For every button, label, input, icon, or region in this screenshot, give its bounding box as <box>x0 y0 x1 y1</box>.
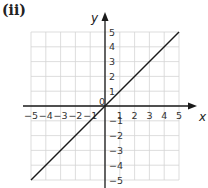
y-tick-label: 4 <box>109 41 115 52</box>
coordinate-plot: xy −5−4−3−2−11234554321−1−2−3−4−50 <box>0 0 208 188</box>
y-tick-label: −4 <box>109 160 123 171</box>
x-tick-label: 2 <box>132 110 138 121</box>
x-axis-arrow-icon <box>188 103 197 110</box>
y-tick-label: 1 <box>109 86 115 97</box>
y-tick-label: 5 <box>109 27 115 38</box>
x-tick-label: −2 <box>68 110 82 121</box>
y-tick-label: −3 <box>109 145 123 156</box>
y-axis-arrow-icon <box>102 12 109 21</box>
y-tick-label: −1 <box>109 115 123 126</box>
origin-label: 0 <box>99 96 105 107</box>
x-tick-label: −5 <box>24 110 38 121</box>
x-tick-label: 5 <box>176 110 182 121</box>
x-tick-label: −3 <box>54 110 68 121</box>
x-axis-label: x <box>198 110 207 124</box>
x-tick-label: 3 <box>146 110 152 121</box>
y-tick-label: −2 <box>109 130 123 141</box>
x-tick-label: 4 <box>161 110 167 121</box>
y-axis-label: y <box>90 11 99 25</box>
y-tick-label: 2 <box>109 71 115 82</box>
x-tick-label: −4 <box>39 110 53 121</box>
y-tick-label: −5 <box>109 175 123 186</box>
y-tick-label: 3 <box>109 56 115 67</box>
